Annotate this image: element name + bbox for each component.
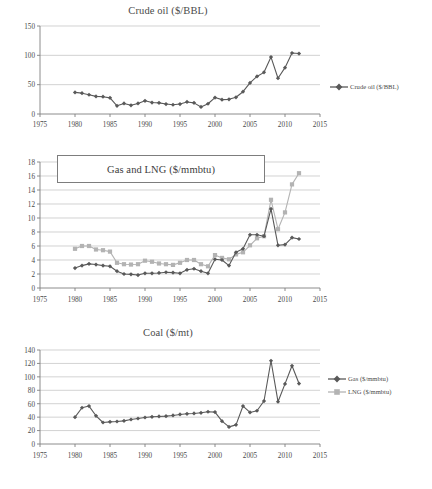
svg-text:2000: 2000 — [208, 452, 223, 460]
chart-panel-coal: Coal ($/mt) 0204060801001201401975198019… — [0, 326, 432, 486]
chart-panel-crude-oil: Crude oil ($/BBL) 0501001501975198019851… — [0, 4, 432, 144]
svg-text:80: 80 — [28, 387, 36, 395]
svg-text:12: 12 — [28, 201, 36, 209]
svg-text:18: 18 — [28, 159, 36, 167]
svg-text:1975: 1975 — [33, 121, 48, 129]
plot-area-gas-lng: 0246810121416181975198019851990199520002… — [0, 150, 432, 315]
legend-item-crude-oil: Crude oil ($/BBL) — [330, 82, 399, 91]
chart-title-gas-lng: Gas and LNG ($/mmbtu) — [57, 155, 265, 183]
svg-text:100: 100 — [24, 52, 35, 60]
svg-text:20: 20 — [28, 427, 36, 435]
svg-text:1990: 1990 — [138, 296, 153, 304]
svg-text:2005: 2005 — [243, 296, 258, 304]
energy-price-charts-figure: Crude oil ($/BBL) 0501001501975198019851… — [0, 0, 432, 489]
svg-text:2015: 2015 — [313, 452, 328, 460]
chart-svg-coal: 0204060801001201401975198019851990199520… — [0, 342, 432, 477]
svg-text:1990: 1990 — [138, 452, 153, 460]
svg-text:4: 4 — [31, 257, 35, 265]
svg-text:2010: 2010 — [278, 121, 293, 129]
svg-text:150: 150 — [24, 23, 35, 31]
svg-text:2005: 2005 — [243, 452, 258, 460]
chart-panel-gas-lng: 0246810121416181975198019851990199520002… — [0, 150, 432, 322]
svg-text:1995: 1995 — [173, 452, 188, 460]
svg-text:14: 14 — [28, 187, 36, 195]
svg-text:2010: 2010 — [278, 296, 293, 304]
svg-text:1985: 1985 — [103, 452, 118, 460]
svg-text:1980: 1980 — [68, 296, 83, 304]
svg-text:1975: 1975 — [33, 296, 48, 304]
svg-text:1985: 1985 — [103, 296, 118, 304]
svg-text:2: 2 — [31, 271, 35, 279]
svg-text:40: 40 — [28, 414, 36, 422]
chart-title-coal: Coal ($/mt) — [0, 326, 432, 342]
svg-text:1995: 1995 — [173, 296, 188, 304]
svg-text:1980: 1980 — [68, 452, 83, 460]
svg-text:8: 8 — [31, 229, 35, 237]
svg-text:1995: 1995 — [173, 121, 188, 129]
legend-label-crude-oil: Crude oil ($/BBL) — [350, 82, 399, 91]
svg-text:1975: 1975 — [33, 452, 48, 460]
svg-text:100: 100 — [24, 374, 35, 382]
svg-text:0: 0 — [31, 111, 35, 119]
svg-text:10: 10 — [28, 215, 36, 223]
svg-text:6: 6 — [31, 243, 35, 251]
legend-crude-oil: Crude oil ($/BBL) — [330, 82, 399, 95]
chart-svg-crude-oil: 0501001501975198019851990199520002005201… — [0, 20, 432, 140]
svg-text:2015: 2015 — [313, 296, 328, 304]
plot-area-crude-oil: 0501001501975198019851990199520002005201… — [0, 20, 432, 140]
svg-text:0: 0 — [31, 285, 35, 293]
svg-text:1990: 1990 — [138, 121, 153, 129]
svg-text:2000: 2000 — [208, 296, 223, 304]
chart-title-crude-oil: Crude oil ($/BBL) — [0, 4, 432, 20]
svg-text:2010: 2010 — [278, 452, 293, 460]
svg-text:140: 140 — [24, 347, 35, 355]
svg-text:120: 120 — [24, 360, 35, 368]
svg-text:50: 50 — [28, 81, 36, 89]
svg-text:60: 60 — [28, 401, 36, 409]
svg-text:1985: 1985 — [103, 121, 118, 129]
svg-text:2000: 2000 — [208, 121, 223, 129]
svg-text:0: 0 — [31, 441, 35, 449]
svg-text:1980: 1980 — [68, 121, 83, 129]
svg-text:2005: 2005 — [243, 121, 258, 129]
legend-marker-diamond-icon — [330, 83, 348, 91]
svg-text:16: 16 — [28, 173, 36, 181]
plot-area-coal: 0204060801001201401975198019851990199520… — [0, 342, 432, 477]
svg-text:2015: 2015 — [313, 121, 328, 129]
